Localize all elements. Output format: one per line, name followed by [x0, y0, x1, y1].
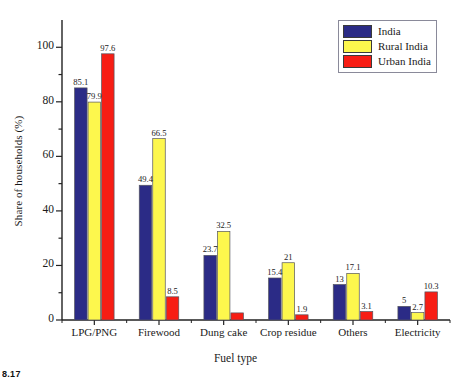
bars — [75, 54, 438, 320]
bar-value-label: 10.3 — [416, 281, 446, 291]
bar — [269, 278, 282, 320]
bar-value-label: 2.7 — [403, 302, 433, 312]
bar-value-label: 17.1 — [338, 262, 368, 272]
legend-swatch-rural-india — [343, 40, 372, 53]
bar — [296, 315, 309, 320]
legend-label-urban-india: Urban India — [378, 56, 431, 67]
bar — [411, 313, 424, 320]
bar-value-label: 79.9 — [79, 91, 109, 101]
bar-value-label: 66.5 — [144, 128, 174, 138]
bar — [231, 313, 244, 320]
bar — [139, 185, 152, 320]
bar — [360, 312, 373, 320]
bar-value-label: 8.5 — [158, 286, 188, 296]
bar-chart: Share of households (%) Fuel type 020406… — [0, 0, 461, 378]
x-tick-label: Electricity — [358, 326, 461, 338]
y-tick-label: 40 — [14, 203, 54, 215]
bar-value-label: 3.1 — [352, 301, 382, 311]
x-axis-title-text: Fuel type — [214, 352, 257, 364]
y-tick-label: 20 — [14, 257, 54, 269]
legend-swatch-india — [343, 25, 372, 38]
legend-label-india: India — [378, 26, 401, 37]
bar-value-label: 32.5 — [209, 220, 239, 230]
bar-value-label: 85.1 — [66, 77, 96, 87]
legend-item: Urban India — [343, 54, 431, 69]
legend-label-rural-india: Rural India — [378, 41, 428, 52]
bar-value-label: 21 — [273, 252, 303, 262]
legend-swatch-urban-india — [343, 55, 372, 68]
bar-value-label: 97.6 — [93, 43, 123, 53]
x-axis-title: Fuel type — [0, 352, 461, 364]
y-tick-label: 0 — [14, 312, 54, 324]
legend: India Rural India Urban India — [338, 20, 437, 73]
bar — [204, 255, 217, 320]
bar-value-label: 13 — [325, 274, 355, 284]
bar-value-label: 49.4 — [131, 174, 161, 184]
bar — [88, 102, 101, 320]
bar-value-label: 23.7 — [195, 244, 225, 254]
y-tick-label: 100 — [14, 39, 54, 51]
corner-note: 8.17 — [2, 369, 21, 378]
bar-value-label: 1.9 — [287, 304, 317, 314]
bar — [166, 297, 179, 320]
y-tick-label: 60 — [14, 148, 54, 160]
y-tick-label: 80 — [14, 94, 54, 106]
legend-item: India — [343, 24, 431, 39]
bar — [333, 285, 346, 320]
bar — [75, 88, 88, 320]
legend-item: Rural India — [343, 39, 431, 54]
bar-value-label: 15.4 — [260, 267, 290, 277]
